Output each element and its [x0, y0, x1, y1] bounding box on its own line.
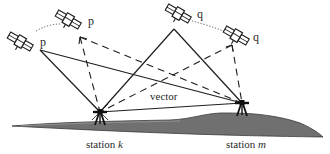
station-m-label: station m [226, 138, 266, 150]
station-k-label: station k [86, 138, 124, 150]
signal-line-p2-k [80, 37, 100, 112]
satellite-icon [223, 26, 249, 45]
satellite-icon [55, 10, 81, 29]
gps-relative-positioning-diagram: vector p p q q station k station m [0, 0, 330, 154]
orbit-arc-p [36, 24, 60, 31]
satellite-label-p2: p [88, 14, 94, 28]
signal-line-p1-k [40, 50, 100, 112]
satellite-label-p1: p [40, 35, 46, 49]
orbit-arc-q [192, 21, 226, 32]
station-m-tripod-icon [235, 100, 249, 116]
satellite-label-q2: q [253, 30, 259, 44]
baseline-vector [100, 103, 242, 112]
signal-line-p1-m [40, 50, 242, 103]
ground-terrain [12, 113, 323, 137]
satellite-label-q1: q [197, 7, 203, 21]
signal-line-q1-m [174, 29, 242, 103]
satellite-icon [7, 32, 33, 51]
satellite-icon [165, 4, 191, 23]
vector-label: vector [150, 90, 178, 102]
